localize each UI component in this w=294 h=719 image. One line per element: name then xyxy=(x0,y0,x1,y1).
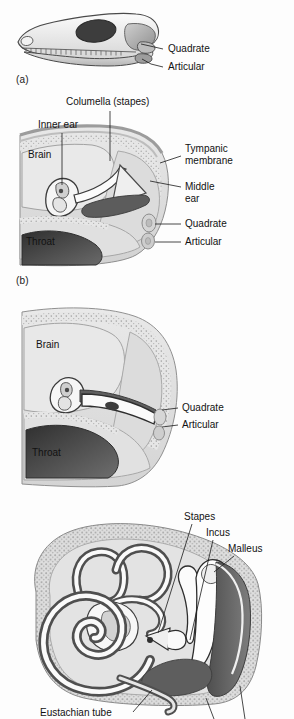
label-throat: Throat xyxy=(26,236,55,247)
quadrate-bone xyxy=(154,409,166,425)
label-articular: Articular xyxy=(168,61,205,72)
panel-c-transitional-ear: Brain Quadrate Articular Throat xyxy=(0,290,294,500)
label-incus: Incus xyxy=(206,527,230,538)
label-articular: Articular xyxy=(185,236,222,247)
figure-middle-ear-evolution: Quadrate Articular (a) xyxy=(0,0,294,719)
skull-drawing xyxy=(18,13,159,66)
label-middle-ear-line1: Middle xyxy=(185,181,215,192)
label-eustachian-tube: Eustachian tube xyxy=(40,707,112,718)
panel-letter-b: (b) xyxy=(16,275,29,286)
panel-d-mammalian-ear: Stapes Incus Malleus Eustachian tube xyxy=(0,500,294,719)
label-quadrate: Quadrate xyxy=(168,43,210,54)
panel-b-reptile-ear: Columella (stapes) Inner ear Brain Tympa… xyxy=(0,95,294,290)
label-articular: Articular xyxy=(182,419,219,430)
label-quadrate: Quadrate xyxy=(185,218,227,229)
transitional-head-section xyxy=(22,308,177,487)
label-brain: Brain xyxy=(28,149,51,160)
label-stapes: Stapes xyxy=(184,511,215,522)
label-throat: Throat xyxy=(32,447,61,458)
stapes-bone xyxy=(168,630,186,649)
label-malleus: Malleus xyxy=(228,543,262,554)
label-columella-stapes: Columella (stapes) xyxy=(66,96,149,107)
articular-bone xyxy=(154,426,165,440)
panel-letter-a: (a) xyxy=(16,74,29,85)
label-quadrate: Quadrate xyxy=(182,402,224,413)
panel-a-reptile-skull: Quadrate Articular (a) xyxy=(0,0,294,95)
articular-bone xyxy=(135,54,152,64)
label-tympanic-membrane-line2: membrane xyxy=(185,155,233,166)
label-middle-ear-line2: ear xyxy=(185,193,200,204)
label-tympanic-membrane-line1: Tympanic xyxy=(185,143,228,154)
label-brain: Brain xyxy=(36,339,59,350)
label-inner-ear: Inner ear xyxy=(38,119,79,130)
